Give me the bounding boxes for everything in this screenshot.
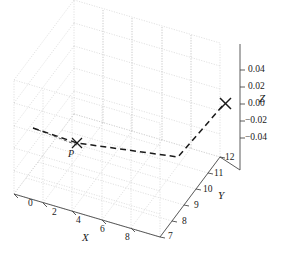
y-axis-title: Y bbox=[218, 190, 224, 201]
data-leader-line bbox=[33, 128, 77, 145]
z-axis-title: Z bbox=[259, 93, 265, 104]
marker-point-p bbox=[72, 138, 82, 148]
z-tick-label-0: 0.04 bbox=[248, 65, 265, 75]
y-axis-spine bbox=[160, 157, 220, 237]
x-axis-title: X bbox=[82, 232, 89, 243]
marker-point-2 bbox=[220, 98, 231, 109]
x-tick-label-2: 4 bbox=[76, 216, 81, 226]
y-tick-label-2: 9 bbox=[194, 201, 199, 211]
x-tick-label-0: 0 bbox=[28, 199, 33, 209]
x-tick-label-4: 8 bbox=[125, 233, 130, 243]
y-tick-label-4: 11 bbox=[214, 169, 223, 179]
z-tick-label-1: 0.02 bbox=[248, 82, 265, 92]
z-axis-ticks bbox=[240, 70, 245, 138]
y-tick-label-3: 10 bbox=[203, 185, 213, 195]
y-tick-label-1: 8 bbox=[182, 217, 187, 227]
y-tick-label-5: 12 bbox=[225, 153, 235, 163]
y-tick-label-0: 7 bbox=[168, 232, 173, 242]
x-tick-label-1: 2 bbox=[52, 208, 57, 218]
data-point-label-p: P bbox=[68, 149, 74, 159]
z-tick-label-4: −0.04 bbox=[245, 133, 267, 143]
grid-wall-right bbox=[14, 0, 220, 194]
z-tick-label-3: −0.02 bbox=[245, 116, 267, 126]
x-tick-label-3: 6 bbox=[100, 225, 105, 235]
plot-canvas bbox=[0, 0, 286, 257]
grid-wall-back-right bbox=[74, 0, 220, 157]
figure-3d-scatter-plot: 0 2 4 6 8 7 8 9 10 11 12 0.04 0.02 0.00 … bbox=[0, 0, 286, 257]
axis-spines bbox=[14, 44, 240, 237]
grid-wall-left bbox=[14, 80, 160, 237]
